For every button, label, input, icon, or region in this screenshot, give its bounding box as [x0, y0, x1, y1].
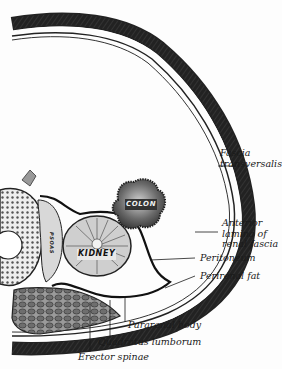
- anatomy-figure: COLON KIDNEY PSOAS Fascia transversalis …: [0, 0, 282, 369]
- label-anterior-lamina: Anterior lamina of renal fascia: [222, 218, 278, 250]
- psoas-label: PSOAS: [46, 232, 57, 254]
- label-peritoneum: Peritoneum: [200, 253, 256, 264]
- label-fascia-transversalis: Fascia transversalis: [220, 148, 282, 169]
- vertebra: [0, 170, 43, 285]
- label-pararenal-body: Pararenal body: [128, 320, 201, 331]
- kidney-label: KIDNEY: [77, 249, 116, 260]
- label-quadratus-lumborum: Quadratus lumborum: [98, 337, 201, 348]
- label-erector-spinae: Erector spinae: [78, 352, 149, 363]
- label-perirenal-fat: Perirenal fat: [200, 271, 260, 282]
- colon-label: COLON: [125, 199, 157, 210]
- cross-section-illustration: [0, 0, 282, 369]
- back-muscles: [12, 288, 120, 334]
